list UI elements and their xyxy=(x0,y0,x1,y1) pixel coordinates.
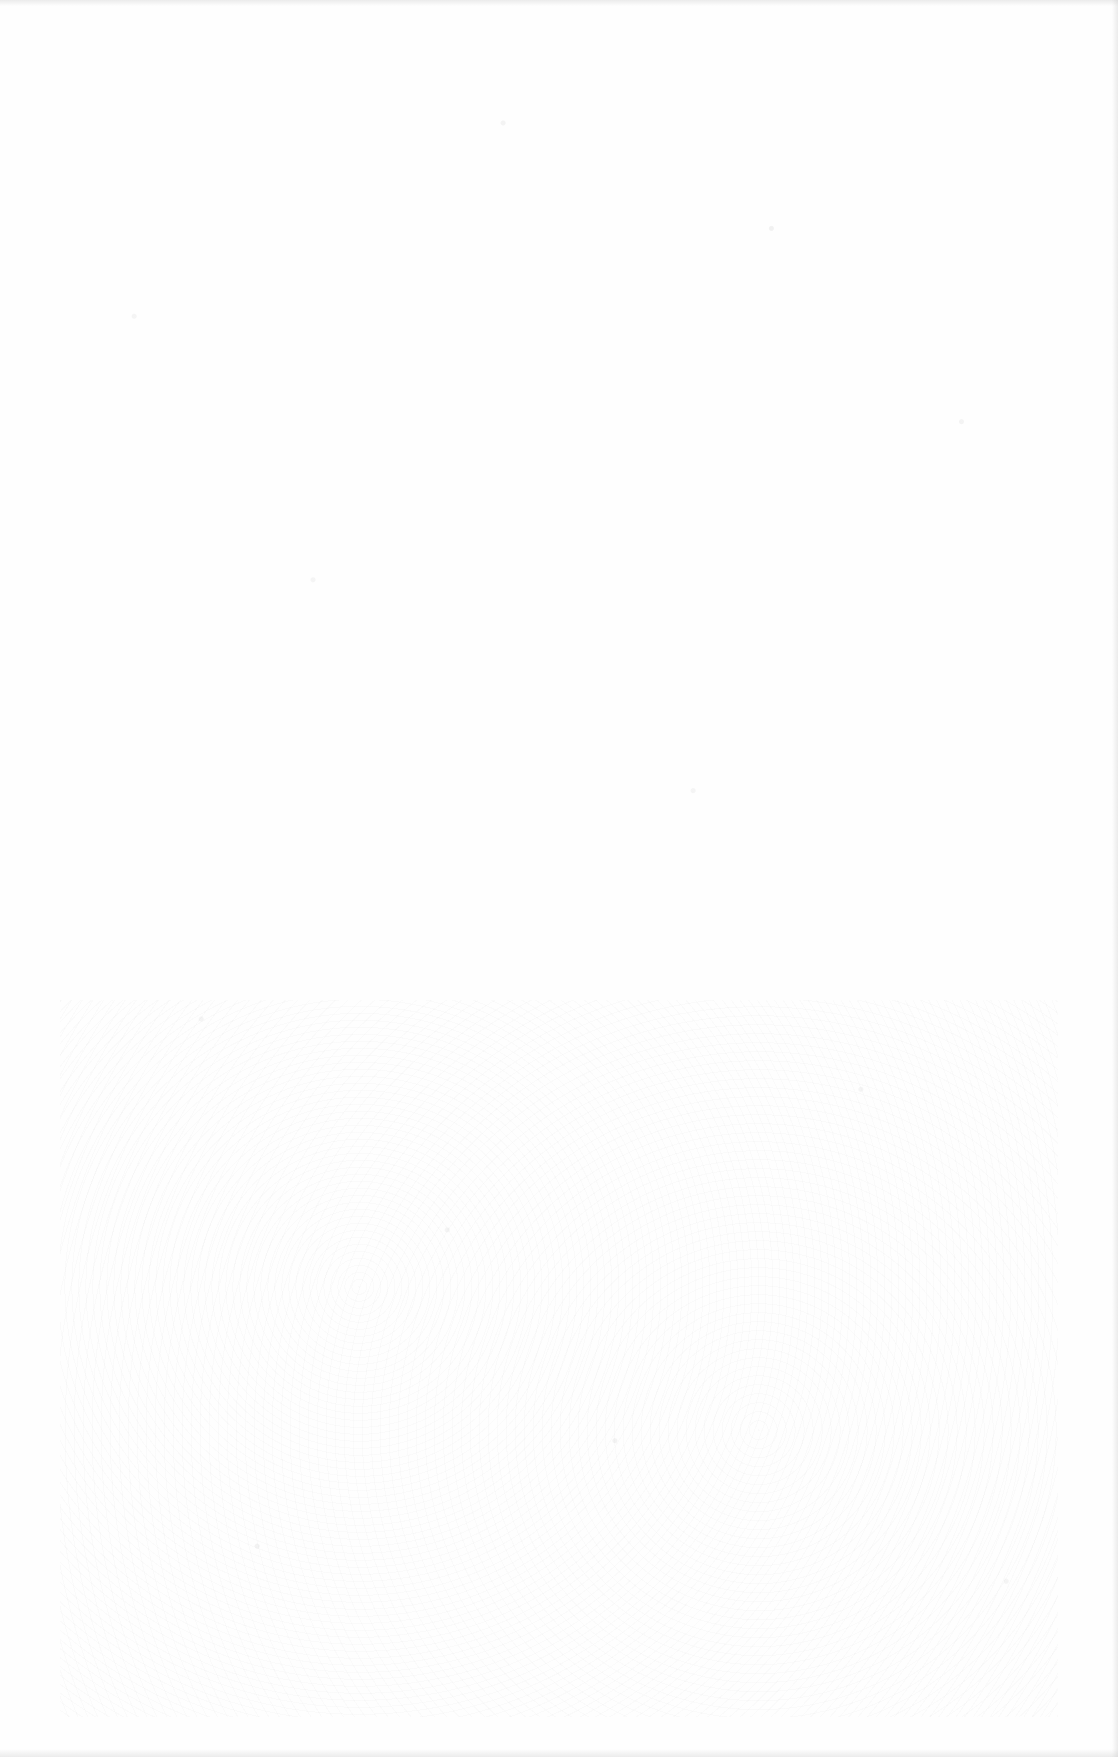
blank-page xyxy=(0,0,1118,1757)
page-edge-bottom xyxy=(0,1749,1118,1757)
page-edge-top xyxy=(0,0,1118,6)
page-edge-right xyxy=(1112,0,1118,1757)
paper-noise-band xyxy=(60,1000,1058,1717)
